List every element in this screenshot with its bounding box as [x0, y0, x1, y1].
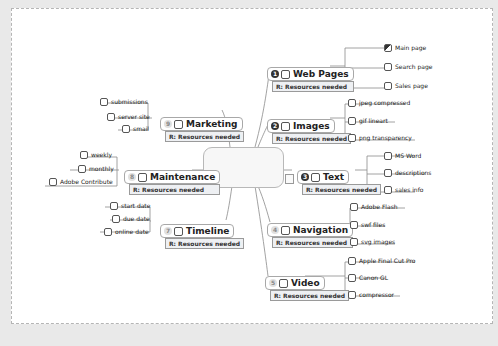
- checkbox-icon[interactable]: [348, 99, 356, 107]
- checkbox-icon[interactable]: [384, 186, 392, 194]
- checkbox-icon[interactable]: [350, 238, 358, 246]
- checkbox-icon[interactable]: [311, 173, 320, 182]
- checkbox-icon[interactable]: [384, 152, 392, 160]
- leaf-start-date[interactable]: start date: [110, 201, 150, 210]
- leaf-smail[interactable]: smail: [122, 124, 149, 133]
- checkbox-icon[interactable]: [348, 257, 356, 265]
- topic-text[interactable]: 3Text R: Resources needed: [297, 164, 381, 195]
- leaf-descriptions[interactable]: descriptions: [384, 168, 432, 177]
- priority-icon: 4: [271, 226, 279, 234]
- leaf-server-site[interactable]: server site: [107, 112, 150, 121]
- leaf-submissions[interactable]: submissions: [100, 97, 148, 106]
- resource-label: R: Resources needed: [165, 238, 244, 249]
- checkbox-icon[interactable]: [138, 173, 147, 182]
- note-icon[interactable]: [285, 174, 294, 184]
- checkbox-icon[interactable]: [281, 122, 290, 131]
- topic-label: Navigation: [293, 225, 348, 235]
- priority-icon: 8: [128, 173, 136, 181]
- topic-marketing[interactable]: 9Marketing R: Resources needed: [160, 111, 244, 142]
- leaf-label: png transparency: [359, 134, 412, 141]
- topic-images[interactable]: 2Images R: Resources needed: [267, 113, 351, 144]
- checkbox-icon[interactable]: [350, 221, 358, 229]
- topic-web-pages[interactable]: 1Web Pages R: Resources needed: [267, 61, 354, 92]
- topic-maintenance[interactable]: 8Maintenance R: Resources needed: [124, 164, 220, 195]
- half-complete-icon[interactable]: [384, 44, 392, 52]
- checkbox-icon[interactable]: [281, 226, 290, 235]
- checkbox-icon[interactable]: [348, 134, 356, 142]
- leaf-monthly[interactable]: monthly: [78, 164, 114, 173]
- leaf-adobe-flash[interactable]: Adobe Flash: [350, 202, 398, 211]
- leaf-label: smail: [133, 125, 149, 132]
- checkbox-icon[interactable]: [104, 228, 112, 236]
- leaf-jpeg-compressed[interactable]: jpeg compressed: [348, 98, 410, 107]
- checkbox-icon[interactable]: [348, 274, 356, 282]
- checkbox-icon[interactable]: [384, 82, 392, 90]
- checkbox-icon[interactable]: [100, 98, 108, 106]
- leaf-gif-lineart[interactable]: gif lineart: [348, 116, 388, 125]
- leaf-sales-page[interactable]: Sales page: [384, 81, 428, 90]
- leaf-canon-gl[interactable]: Canon GL: [348, 273, 388, 282]
- checkbox-icon[interactable]: [107, 113, 115, 121]
- topic-label: Web Pages: [293, 69, 349, 79]
- topic-label: Marketing: [186, 119, 238, 129]
- leaf-sales-info[interactable]: sales info: [384, 185, 423, 194]
- leaf-label: monthly: [89, 165, 114, 172]
- leaf-label: jpeg compressed: [359, 99, 410, 106]
- leaf-label: MS Word: [395, 152, 421, 159]
- checkbox-icon[interactable]: [122, 125, 130, 133]
- leaf-png-transparency[interactable]: png transparency: [348, 133, 412, 142]
- leaf-swf-files[interactable]: swf files: [350, 220, 385, 229]
- resource-label: R: Resources needed: [165, 131, 244, 142]
- checkbox-icon[interactable]: [384, 169, 392, 177]
- checkbox-icon[interactable]: [174, 227, 183, 236]
- leaf-label: Sales page: [395, 82, 428, 89]
- checkbox-icon[interactable]: [78, 165, 86, 173]
- leaf-label: Canon GL: [359, 274, 388, 281]
- resource-label: R: Resources needed: [302, 184, 381, 195]
- checkbox-icon[interactable]: [112, 215, 120, 223]
- checkbox-icon[interactable]: [348, 291, 356, 299]
- checkbox-icon[interactable]: [350, 203, 358, 211]
- resource-label: R: Resources needed: [272, 237, 353, 248]
- leaf-label: compressor: [359, 291, 394, 298]
- leaf-label: Adobe Contribute: [60, 178, 113, 185]
- priority-icon: 5: [269, 279, 277, 287]
- leaf-weekly[interactable]: weekly: [80, 150, 112, 159]
- leaf-online-date[interactable]: online date: [104, 227, 149, 236]
- leaf-search-page[interactable]: Search page: [384, 62, 433, 71]
- topic-navigation[interactable]: 4Navigation R: Resources needed: [267, 217, 353, 248]
- leaf-label: Adobe Flash: [361, 203, 398, 210]
- leaf-label: server site: [118, 113, 150, 120]
- checkbox-icon[interactable]: [80, 151, 88, 159]
- topic-timeline[interactable]: 7Timeline R: Resources needed: [160, 218, 244, 249]
- checkbox-icon[interactable]: [348, 117, 356, 125]
- checkbox-icon[interactable]: [110, 202, 118, 210]
- priority-icon: 2: [271, 122, 279, 130]
- leaf-label: Apple Final Cut Pro: [359, 257, 416, 264]
- checkbox-icon[interactable]: [384, 63, 392, 71]
- leaf-label: start date: [121, 202, 150, 209]
- checkbox-icon[interactable]: [281, 70, 290, 79]
- resource-label: R: Resources needed: [272, 133, 351, 144]
- leaf-adobe-contribute[interactable]: Adobe Contribute: [49, 177, 113, 186]
- leaf-svg-images[interactable]: svg images: [350, 237, 395, 246]
- topic-label: Timeline: [186, 226, 229, 236]
- topic-label: Images: [293, 121, 330, 131]
- topic-video[interactable]: 5Video R: Resources needed: [265, 270, 349, 301]
- leaf-ms-word[interactable]: MS Word: [384, 151, 421, 160]
- leaf-label: online date: [115, 228, 149, 235]
- leaf-apple-final-cut-pro[interactable]: Apple Final Cut Pro: [348, 256, 416, 265]
- priority-icon: 3: [301, 173, 309, 181]
- leaf-label: gif lineart: [359, 117, 388, 124]
- leaf-due-date[interactable]: due date: [112, 214, 150, 223]
- checkbox-icon[interactable]: [279, 279, 288, 288]
- resource-label: R: Resources needed: [129, 184, 220, 195]
- leaf-label: due date: [123, 215, 150, 222]
- leaf-main-page[interactable]: Main page: [384, 43, 426, 52]
- leaf-label: weekly: [91, 151, 112, 158]
- leaf-compressor[interactable]: compressor: [348, 290, 394, 299]
- checkbox-icon[interactable]: [174, 120, 183, 129]
- leaf-label: submissions: [111, 98, 148, 105]
- leaf-label: swf files: [361, 221, 385, 228]
- checkbox-icon[interactable]: [49, 178, 57, 186]
